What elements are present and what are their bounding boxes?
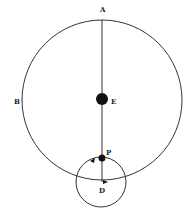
label-p: P (106, 148, 112, 157)
earth-dot (96, 93, 108, 105)
label-e: E (111, 97, 116, 106)
deferent-arrow-icon (103, 180, 108, 184)
diagram-canvas: A B E P D (0, 0, 192, 219)
epicycle-diagram: A B E P D (0, 0, 192, 219)
label-a: A (99, 5, 106, 14)
epicycle-circle (76, 157, 126, 207)
planet-dot (99, 155, 106, 162)
label-b: B (14, 97, 20, 106)
label-d: D (99, 186, 105, 195)
